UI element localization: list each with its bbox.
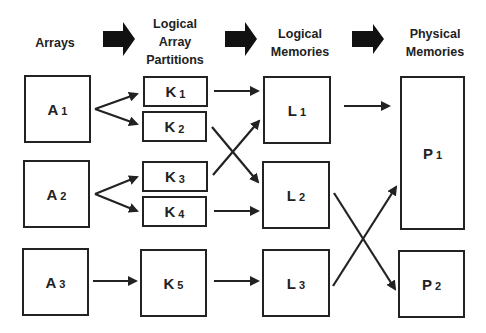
box-subscript: 3 xyxy=(299,279,305,291)
stage-arrow-icon xyxy=(103,22,135,56)
box-subscript: 1 xyxy=(436,149,442,161)
physical-memory-p2: P2 xyxy=(398,250,465,318)
box-subscript: 1 xyxy=(179,88,185,100)
logical-memory-l1: L1 xyxy=(263,76,331,144)
box-subscript: 2 xyxy=(435,280,441,292)
box-label: K xyxy=(166,83,177,100)
box-label: A xyxy=(48,101,59,118)
box-subscript: 1 xyxy=(61,105,67,117)
partition-k3: K3 xyxy=(142,161,208,192)
box-label: P xyxy=(422,276,432,293)
box-label: L xyxy=(287,275,296,292)
box-subscript: 2 xyxy=(299,191,305,203)
box-subscript: 4 xyxy=(178,208,184,220)
box-label: P xyxy=(423,145,433,162)
box-label: L xyxy=(287,187,296,204)
array-a2: A2 xyxy=(23,160,90,228)
arrow-l2-p2 xyxy=(334,193,395,289)
arrow-l3-p1 xyxy=(333,187,396,286)
partition-k2: K2 xyxy=(142,111,207,142)
box-label: K xyxy=(165,168,176,185)
array-a3: A3 xyxy=(22,248,89,316)
arrow-k2-l2 xyxy=(212,127,258,182)
box-subscript: 1 xyxy=(300,106,306,118)
physical-memory-p1: P1 xyxy=(400,76,465,230)
box-label: A xyxy=(47,186,58,203)
box-subscript: 2 xyxy=(178,123,184,135)
arrow-a1-k1 xyxy=(95,94,137,109)
box-subscript: 5 xyxy=(177,279,183,291)
box-label: A xyxy=(46,274,57,291)
array-a1: A1 xyxy=(24,75,91,143)
box-label: L xyxy=(288,102,297,119)
stage-arrow-icon xyxy=(352,24,384,54)
logical-memory-l3: L3 xyxy=(262,249,330,317)
logical-memory-l2: L2 xyxy=(262,161,330,229)
partition-k5: K5 xyxy=(140,249,207,317)
arrow-a1-k2 xyxy=(95,109,137,124)
arrow-a2-k4 xyxy=(95,194,137,211)
box-label: K xyxy=(165,118,176,135)
box-label: K xyxy=(164,275,175,292)
partition-k1: K1 xyxy=(143,76,208,107)
partition-k4: K4 xyxy=(142,196,207,227)
box-label: K xyxy=(165,203,176,220)
box-subscript: 2 xyxy=(60,190,66,202)
box-subscript: 3 xyxy=(59,278,65,290)
arrow-k3-l1 xyxy=(213,121,259,175)
stage-arrow-icon xyxy=(225,22,257,56)
arrow-a2-k3 xyxy=(95,177,137,194)
box-subscript: 3 xyxy=(179,173,185,185)
